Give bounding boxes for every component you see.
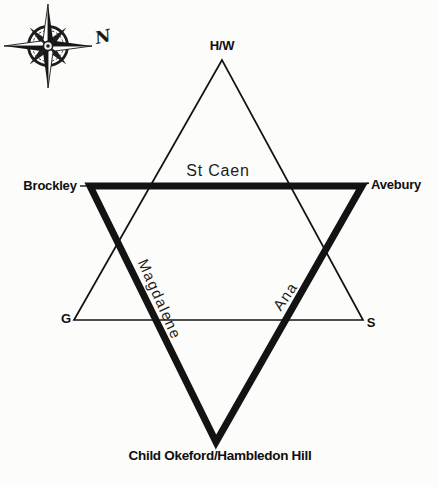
thin-triangle-outline [74,60,363,320]
vertex-label-g: G [61,312,71,325]
vertex-label-hw: H/W [210,39,235,52]
compass-rose-icon [0,0,96,92]
vertex-label-s: S [367,316,375,329]
vertex-label-avebury: Avebury [371,178,421,191]
edge-label-st-caen: St Caen [186,163,249,179]
vertex-label-brockley: Brockley [23,179,76,192]
diagram-canvas: N H/W Brockley Avebury G S Child Okeford… [0,0,437,487]
compass-north-label: N [94,27,113,47]
vertex-label-child-okeford: Child Okeford/Hambledon Hill [129,449,312,463]
thick-triangle-outline [90,186,362,442]
